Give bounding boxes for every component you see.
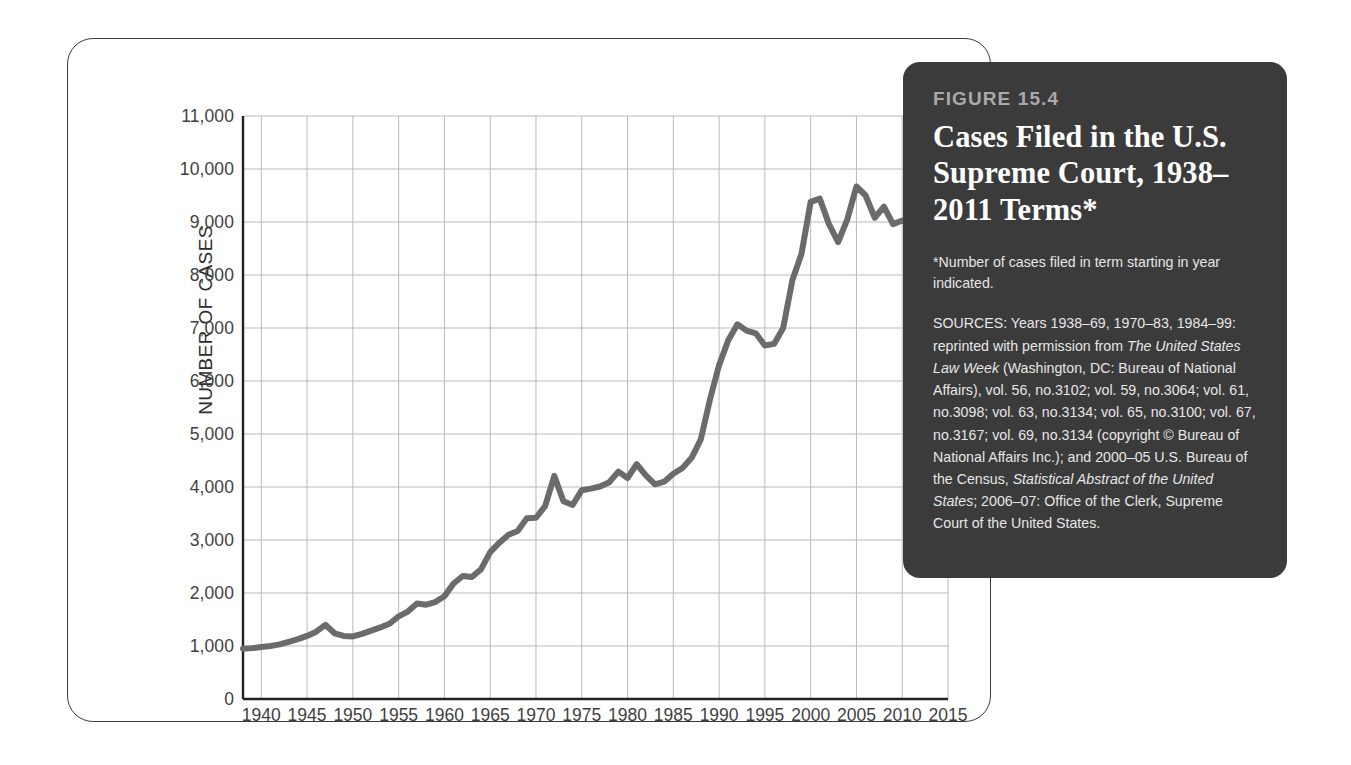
x-axis-tick-label: 2015	[929, 705, 968, 726]
x-axis-tick-label: 1980	[608, 705, 647, 726]
y-axis-tick-label: 3,000	[154, 530, 234, 551]
x-axis-tick-label: 1965	[471, 705, 510, 726]
x-axis-tick-label: 1990	[700, 705, 739, 726]
x-axis-tick-labels: 1940194519501955196019651970197519801985…	[243, 705, 948, 735]
y-axis-tick-label: 0	[154, 689, 234, 710]
x-axis-tick-label: 1945	[288, 705, 327, 726]
sources-mid: (Washington, DC: Bureau of National Affa…	[933, 360, 1256, 487]
figure-root: NUMBER OF CASES 11,00010,0009,0008,0007,…	[0, 0, 1351, 765]
x-axis-tick-label: 1940	[242, 705, 281, 726]
x-axis-tick-label: 1975	[562, 705, 601, 726]
x-axis-tick-label: 1985	[654, 705, 693, 726]
y-axis-tick-label: 1,000	[154, 636, 234, 657]
y-axis-tick-label: 9,000	[154, 212, 234, 233]
x-axis-tick-label: 2000	[791, 705, 830, 726]
sources-suffix: ; 2006–07: Office of the Clerk, Supreme …	[933, 493, 1223, 531]
y-axis-tick-label: 2,000	[154, 583, 234, 604]
y-axis-tick-label: 5,000	[154, 424, 234, 445]
x-axis-tick-label: 1960	[425, 705, 464, 726]
y-axis-tick-label: 6,000	[154, 371, 234, 392]
y-axis-tick-label: 7,000	[154, 318, 234, 339]
y-axis-tick-label: 8,000	[154, 265, 234, 286]
y-axis-tick-label: 4,000	[154, 477, 234, 498]
figure-number: FIGURE 15.4	[933, 88, 1257, 110]
plot-area	[243, 116, 948, 699]
y-axis-tick-label: 10,000	[154, 159, 234, 180]
x-axis-tick-label: 2005	[837, 705, 876, 726]
x-axis-tick-label: 1995	[745, 705, 784, 726]
figure-title: Cases Filed in the U.S. Supreme Court, 1…	[933, 119, 1257, 228]
y-axis-tick-label: 11,000	[154, 106, 234, 127]
figure-footnote: *Number of cases filed in term starting …	[933, 252, 1257, 295]
chart-card: NUMBER OF CASES 11,00010,0009,0008,0007,…	[67, 38, 991, 722]
y-axis-tick-labels: 11,00010,0009,0008,0007,0006,0005,0004,0…	[146, 116, 234, 699]
plot-inner	[243, 116, 948, 699]
x-axis-tick-label: 2010	[883, 705, 922, 726]
chart-svg	[243, 116, 948, 699]
x-axis-tick-label: 1955	[379, 705, 418, 726]
x-axis-tick-label: 1970	[517, 705, 556, 726]
figure-info-panel: FIGURE 15.4 Cases Filed in the U.S. Supr…	[903, 62, 1287, 578]
figure-sources: SOURCES: Years 1938–69, 1970–83, 1984–99…	[933, 312, 1257, 534]
x-axis-tick-label: 1950	[333, 705, 372, 726]
